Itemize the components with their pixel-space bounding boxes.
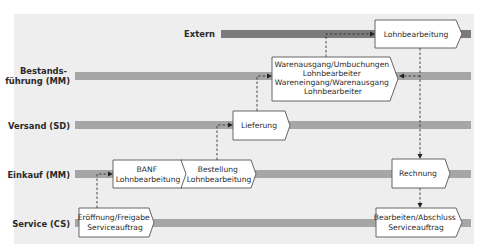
step-banf: BANF Lohnbearbeitung	[113, 160, 187, 188]
step-rechnung: Rechnung	[392, 159, 450, 188]
step-bestellung: Bestellung Lohnbearbeitung	[181, 160, 256, 188]
lane-label-einkauf: Einkauf (MM)	[7, 170, 70, 180]
step-lohnbearbeitung: Lohnbearbeitung	[375, 20, 462, 48]
lane-label-versand: Versand (SD)	[8, 121, 70, 131]
svg-text:Lohnbearbeitung: Lohnbearbeitung	[384, 30, 449, 39]
lane-label-service: Service (CS)	[12, 219, 70, 229]
step-warenausgang: Warenausgang/Umbuchungen Lohnbearbeiter …	[272, 57, 398, 101]
svg-text:Eröffnung/Freigabe Servi: Eröffnung/Freigabe Serviceauftrag	[78, 213, 152, 232]
lane-label-extern: Extern	[184, 29, 215, 39]
step-lieferung: Lieferung	[233, 111, 290, 140]
svg-text:Rechnung: Rechnung	[399, 169, 437, 178]
svg-text:Lieferung: Lieferung	[241, 121, 277, 130]
step-eroeffnung-freigabe: Eröffnung/Freigabe Serviceauftrag	[78, 208, 154, 237]
step-bearbeiten-abschluss: Bearbeiten/Abschluss Serviceauftrag	[374, 208, 462, 237]
process-diagram: Extern Bestands- führung (MM) Versand (S…	[0, 0, 487, 252]
